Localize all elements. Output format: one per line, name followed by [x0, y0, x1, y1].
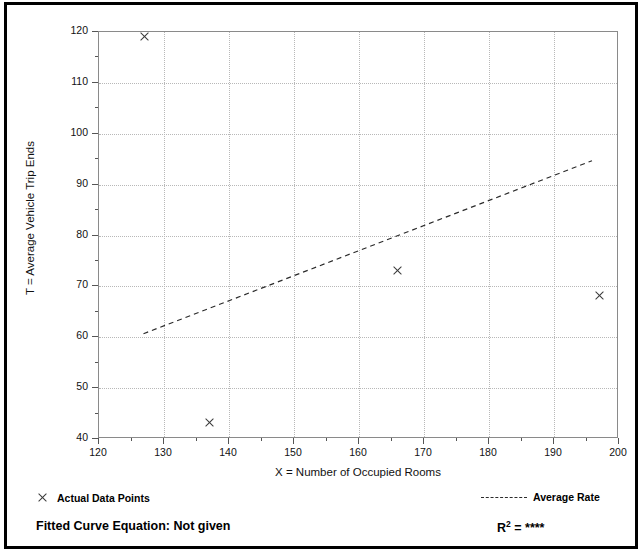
- x-axis-label: X = Number of Occupied Rooms: [98, 466, 618, 478]
- y-axis-label: T = Average Vehicle Trip Ends: [24, 118, 36, 318]
- chart-figure: 1201301401501601701801902004050607080901…: [0, 0, 642, 551]
- r-squared-exponent: 2: [506, 519, 511, 529]
- r-squared-value: = ****: [514, 521, 544, 535]
- legend-label-actual-data-points: Actual Data Points: [57, 492, 150, 504]
- legend-dashed-line-icon: [481, 497, 527, 498]
- r-squared-annotation: R2 = ****: [497, 519, 544, 535]
- legend-label-average-rate: Average Rate: [533, 491, 600, 503]
- r-squared-symbol: R: [497, 521, 506, 535]
- fitted-curve-equation: Fitted Curve Equation: Not given: [36, 519, 230, 533]
- legend-marker-x-icon: [36, 492, 47, 503]
